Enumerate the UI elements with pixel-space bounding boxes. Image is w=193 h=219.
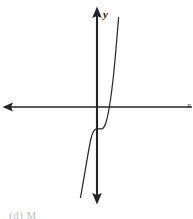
x-axis-label: x xyxy=(187,101,191,110)
y-axis-label: y xyxy=(103,9,108,20)
figure-container: y x (d) M xyxy=(0,0,193,219)
cartesian-graph xyxy=(0,0,193,219)
figure-caption: (d) M xyxy=(9,209,37,219)
